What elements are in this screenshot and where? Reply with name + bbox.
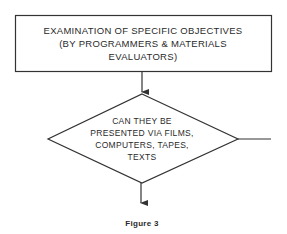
- figure-caption: Figure 3: [125, 219, 159, 228]
- process-box-line-2: (BY PROGRAMMERS & MATERIALS: [59, 38, 227, 49]
- flowchart: EXAMINATION OF SPECIFIC OBJECTIVES (BY P…: [0, 0, 287, 234]
- decision-line-1: CAN THEY BE: [112, 116, 172, 126]
- decision-line-2: PRESENTED VIA FILMS,: [90, 128, 193, 138]
- process-box-line-3: EVALUATORS): [109, 51, 178, 62]
- process-box: EXAMINATION OF SPECIFIC OBJECTIVES (BY P…: [16, 16, 272, 72]
- decision-diamond: CAN THEY BE PRESENTED VIA FILMS, COMPUTE…: [48, 94, 238, 183]
- decision-line-4: TEXTS: [128, 152, 157, 162]
- process-box-line-1: EXAMINATION OF SPECIFIC OBJECTIVES: [44, 25, 243, 36]
- decision-line-3: COMPUTERS, TAPES,: [95, 140, 189, 150]
